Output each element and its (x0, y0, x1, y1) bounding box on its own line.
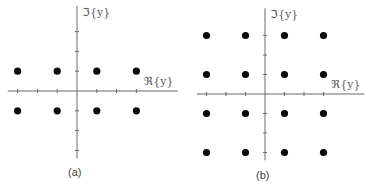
real-axis-label: ℜ{y} (331, 78, 360, 91)
constellation-point (54, 107, 61, 114)
constellation-point (203, 32, 210, 39)
constellation-point (242, 71, 249, 78)
constellation-point (320, 71, 327, 78)
constellation-point (281, 71, 288, 78)
constellation-point (203, 110, 210, 117)
constellation-point (281, 149, 288, 156)
constellation-point (281, 110, 288, 117)
constellation-point (203, 149, 210, 156)
panel-caption: (b) (256, 169, 269, 181)
constellation-point (320, 32, 327, 39)
imaginary-axis-label: ℑ{y} (82, 6, 110, 19)
panel-caption: (a) (68, 166, 81, 178)
panel-b-constellation: ℜ{y} ℑ{y} (b) (197, 8, 365, 181)
constellation-point (14, 68, 21, 75)
constellation-point (242, 149, 249, 156)
constellation-point (14, 107, 21, 114)
constellation-point (133, 107, 140, 114)
constellation-point (242, 32, 249, 39)
constellation-point (320, 149, 327, 156)
constellation-point (93, 68, 100, 75)
constellation-point (281, 32, 288, 39)
constellation-point (54, 68, 61, 75)
real-axis-label: ℜ{y} (144, 75, 173, 88)
imaginary-axis-label: ℑ{y} (270, 8, 298, 21)
constellation-point (93, 107, 100, 114)
constellation-point (242, 110, 249, 117)
constellation-point (133, 68, 140, 75)
constellation-point (320, 110, 327, 117)
constellation-figure: ℜ{y} ℑ{y} (a) ℜ{y} ℑ{y} (b) (0, 0, 368, 186)
panel-a-constellation: ℜ{y} ℑ{y} (a) (8, 6, 178, 178)
constellation-point (203, 71, 210, 78)
